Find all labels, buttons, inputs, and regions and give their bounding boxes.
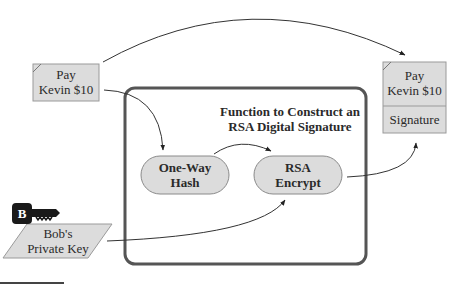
signature-label: Signature bbox=[383, 112, 446, 127]
encrypt-label: RSA Encrypt bbox=[254, 160, 342, 190]
message-line1: Pay bbox=[33, 67, 99, 82]
signed-line2: Kevin $10 bbox=[383, 83, 446, 98]
message-label: Pay Kevin $10 bbox=[33, 67, 99, 97]
private-key-line2: Private Key bbox=[14, 241, 102, 256]
arrow-message-to-hash bbox=[104, 90, 163, 150]
key-letter: B bbox=[12, 206, 32, 221]
frame-title-line2: RSA Digital Signature bbox=[200, 119, 380, 134]
signed-line1: Pay bbox=[383, 68, 446, 83]
hash-line2: Hash bbox=[141, 175, 229, 190]
frame-title: Function to Construct an RSA Digital Sig… bbox=[200, 104, 380, 134]
hash-label: One-Way Hash bbox=[141, 160, 229, 190]
frame-title-line1: Function to Construct an bbox=[200, 104, 380, 119]
arrow-hash-to-encrypt bbox=[214, 144, 271, 154]
encrypt-line2: Encrypt bbox=[254, 175, 342, 190]
arrow-encrypt-to-output bbox=[347, 143, 416, 177]
hash-line1: One-Way bbox=[141, 160, 229, 175]
arrow-key-to-encrypt bbox=[107, 200, 285, 241]
message-line2: Kevin $10 bbox=[33, 82, 99, 97]
arrow-message-to-output bbox=[103, 19, 405, 62]
private-key-line1: Bob's bbox=[14, 226, 102, 241]
encrypt-line1: RSA bbox=[254, 160, 342, 175]
private-key-label: Bob's Private Key bbox=[14, 226, 102, 256]
signed-message-label: Pay Kevin $10 bbox=[383, 68, 446, 98]
